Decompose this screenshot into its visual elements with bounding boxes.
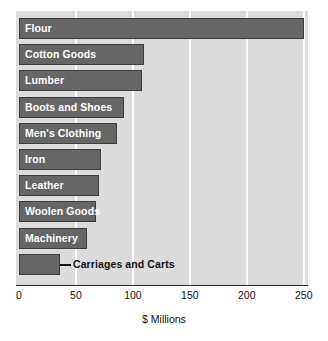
- bars-layer: FlourCotton GoodsLumberBoots and ShoesMe…: [16, 11, 308, 285]
- x-axis-title: $ Millions: [0, 313, 328, 325]
- bar-label: Iron: [25, 149, 45, 170]
- bar-label: Woolen Goods: [25, 201, 100, 222]
- x-tick-label: 150: [181, 289, 199, 301]
- x-tick-label: 250: [295, 289, 313, 301]
- bar-row[interactable]: Machinery: [16, 228, 308, 249]
- bar-row[interactable]: Boots and Shoes: [16, 97, 308, 118]
- bar-row[interactable]: Cotton Goods: [16, 44, 308, 65]
- x-axis-line: [16, 285, 308, 286]
- bar-label: Lumber: [25, 70, 64, 91]
- bar-row[interactable]: Woolen Goods: [16, 201, 308, 222]
- bar[interactable]: [19, 18, 304, 39]
- bar-row[interactable]: Iron: [16, 149, 308, 170]
- bar-label: Men's Clothing: [25, 123, 101, 144]
- bar-label: Machinery: [25, 228, 78, 249]
- bar-row[interactable]: Men's Clothing: [16, 123, 308, 144]
- bar-row[interactable]: Carriages and Carts: [16, 254, 308, 275]
- bar-row[interactable]: Lumber: [16, 70, 308, 91]
- bar-label: Leather: [25, 175, 64, 196]
- x-tick-label: 100: [124, 289, 142, 301]
- bar-label: Boots and Shoes: [25, 97, 112, 118]
- bar-label: Cotton Goods: [25, 44, 96, 65]
- bar-row[interactable]: Leather: [16, 175, 308, 196]
- bar-label: Carriages and Carts: [73, 254, 175, 275]
- bar[interactable]: [19, 254, 60, 275]
- leader-line: [60, 264, 71, 266]
- x-tick-label: 200: [238, 289, 256, 301]
- x-tick-label: 0: [16, 289, 22, 301]
- bar-chart: FlourCotton GoodsLumberBoots and ShoesMe…: [0, 0, 328, 341]
- x-tick-label: 50: [70, 289, 82, 301]
- bar-row[interactable]: Flour: [16, 18, 308, 39]
- bar-label: Flour: [25, 18, 52, 39]
